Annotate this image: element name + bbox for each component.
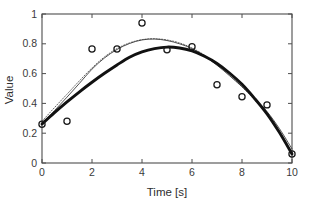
y-axis-label: Value — [3, 76, 15, 105]
x-tick-label-2: 4 — [139, 166, 145, 178]
y-tick-label-0: 0 — [31, 157, 37, 169]
y-tick-label-2: 0.4 — [22, 97, 37, 109]
y-tick-label-5: 1 — [31, 8, 37, 20]
x-tick-label-4: 8 — [239, 166, 245, 178]
chart-figure: 0246810 00.20.40.60.81 Time [s] Value — [0, 0, 310, 203]
y-tick-label-1: 0.2 — [22, 127, 37, 139]
chart-canvas: 0246810 00.20.40.60.81 Time [s] Value — [0, 0, 310, 203]
y-tick-label-3: 0.6 — [22, 67, 37, 79]
x-tick-label-5: 10 — [286, 166, 298, 178]
figure-background — [0, 0, 310, 203]
x-axis-label: Time [s] — [147, 186, 187, 198]
x-tick-label-1: 2 — [89, 166, 95, 178]
x-tick-label-0: 0 — [39, 166, 45, 178]
y-tick-label-4: 0.8 — [22, 37, 37, 49]
x-tick-label-3: 6 — [189, 166, 195, 178]
